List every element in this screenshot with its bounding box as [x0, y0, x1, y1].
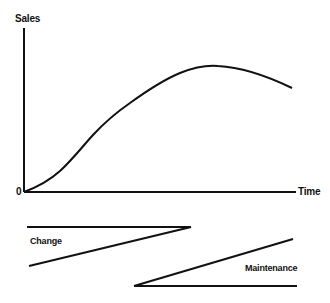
x-axis-label: Time — [298, 186, 320, 197]
y-axis-label: Sales — [15, 13, 40, 24]
origin-label: 0 — [16, 186, 21, 197]
change-wedge — [27, 227, 191, 266]
sales-curve — [24, 66, 292, 192]
life-cycle-diagram — [0, 0, 330, 303]
change-label: Change — [30, 236, 62, 246]
maintenance-label: Maintenance — [245, 263, 297, 273]
